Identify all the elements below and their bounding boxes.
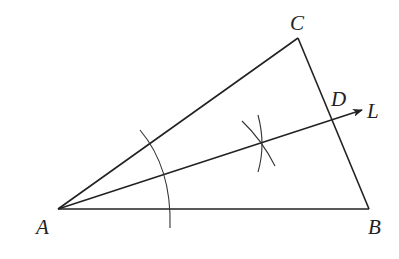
side-bc — [298, 38, 369, 209]
label-point-d: D — [330, 87, 346, 111]
label-point-l: L — [366, 99, 379, 123]
side-ca — [58, 38, 298, 209]
label-point-a: A — [34, 215, 49, 239]
bisector-ray-al — [58, 110, 362, 209]
label-point-c: C — [290, 11, 305, 35]
construction-arc-centered-a — [140, 130, 170, 228]
label-point-b: B — [368, 215, 381, 239]
angle-bisector-diagram: A B C D L — [0, 0, 399, 259]
